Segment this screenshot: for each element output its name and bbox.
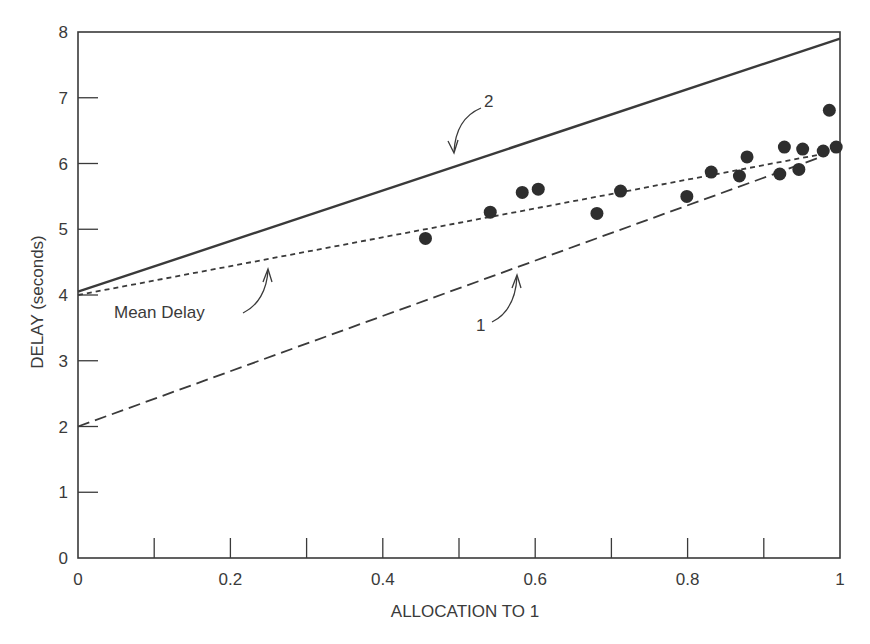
data-point [830,141,843,154]
line-series-1 [78,156,825,427]
annotation-label-mean-delay: Mean Delay [114,303,205,322]
data-point [484,206,497,219]
data-point [733,169,746,182]
data-point [823,104,836,117]
data-point [817,145,830,158]
x-tick-label: 0.8 [676,570,700,589]
y-tick-label: 7 [59,89,68,108]
y-tick-label: 3 [59,352,68,371]
data-point [532,183,545,196]
data-point [796,143,809,156]
y-tick-label: 1 [59,483,68,502]
x-axis-title: ALLOCATION TO 1 [391,602,539,621]
data-point [741,150,754,163]
y-tick-label: 0 [59,549,68,568]
arrowhead-icon [448,140,458,153]
y-tick-label: 6 [59,155,68,174]
arrow-icon [492,276,517,322]
data-point [516,186,529,199]
y-tick-label: 4 [59,286,68,305]
annotation-line-1: 1 [476,275,521,335]
line-series-2 [78,39,840,292]
y-tick-label: 2 [59,418,68,437]
y-tick-label: 5 [59,220,68,239]
x-tick-label: 0.2 [219,570,243,589]
plot-border [78,32,840,558]
data-point [773,168,786,181]
plot-frame [78,32,840,558]
x-tick-label: 0.6 [523,570,547,589]
arrow-icon [243,270,268,313]
data-point [792,163,805,176]
annotation-line-2: 2 [448,92,493,153]
data-point [590,207,603,220]
x-tick-label: 1 [835,570,844,589]
annotation-label-1: 1 [476,316,485,335]
series-lines [78,39,840,427]
data-point [680,190,693,203]
data-point [705,166,718,179]
data-point [778,141,791,154]
x-axis: 00.20.40.60.81 [73,538,844,589]
x-tick-label: 0.4 [371,570,395,589]
arrow-icon [454,108,481,152]
x-tick-label: 0 [73,570,82,589]
annotation-mean-delay: Mean Delay [114,269,272,322]
y-axis-title: DELAY (seconds) [28,235,47,369]
chart: 00.20.40.60.81 012345678 2 Mean Delay 1 … [0,0,870,644]
data-point [614,185,627,198]
data-point [419,232,432,245]
scatter-points [419,104,843,245]
annotation-label-2: 2 [484,92,493,111]
y-tick-label: 8 [59,23,68,42]
